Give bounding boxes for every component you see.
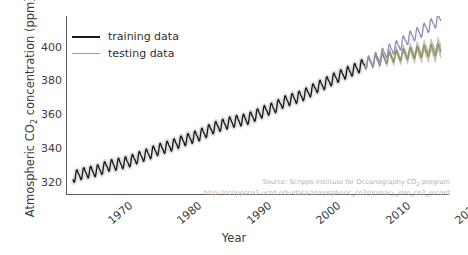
x-axis-tick-label: 1980 [175, 199, 205, 227]
legend-item-0: training data [72, 28, 222, 45]
y-axis-tick-label: 380 [41, 74, 62, 87]
x-axis-tick-label: 1970 [105, 199, 135, 227]
legend: training datatesting data [72, 28, 222, 62]
source-line1-pre: Source: Scripps Institute for Oceanograp… [262, 178, 416, 186]
x-axis-tick-label: 2010 [383, 199, 413, 227]
x-axis-tick-label: 2020 [453, 199, 468, 227]
source-annotation-line1: Source: Scripps Institute for Oceanograp… [204, 178, 450, 189]
y-axis-tick-label: 320 [41, 176, 62, 189]
y-axis-tick-label: 400 [41, 40, 62, 53]
y-axis-tick-label: 340 [41, 142, 62, 155]
source-line1-post: program [420, 178, 450, 186]
source-annotation: Source: Scripps Institute for Oceanograp… [204, 178, 450, 198]
figure: Atmospheric CO2 concentration (ppm) 3203… [0, 0, 468, 255]
legend-swatch-line [72, 53, 100, 54]
legend-item-1: testing data [72, 45, 222, 62]
testing-data-curve [365, 16, 441, 69]
legend-swatch-line [72, 36, 100, 38]
legend-item-label: training data [108, 30, 179, 43]
x-axis-tick-labels: 197019801990200020102020 [66, 195, 449, 235]
x-axis-label: Year [0, 231, 468, 245]
y-axis-tick-labels: 320340360380400 [26, 16, 62, 194]
x-axis-tick-label: 2000 [314, 199, 344, 227]
source-annotation-url: http://scrippsco2.ucsd.edu/data/atmosphe… [204, 189, 450, 199]
x-axis-tick-label: 1990 [244, 199, 274, 227]
y-axis-tick-label: 360 [41, 108, 62, 121]
legend-item-label: testing data [108, 47, 174, 60]
